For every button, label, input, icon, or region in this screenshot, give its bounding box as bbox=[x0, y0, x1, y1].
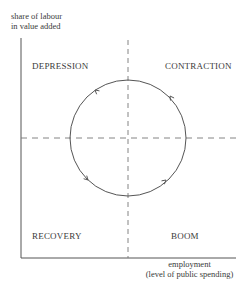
quadrant-label-contraction: CONTRACTION bbox=[165, 61, 232, 71]
quadrant-label-recovery: RECOVERY bbox=[32, 231, 82, 241]
quadrant-label-depression: DEPRESSION bbox=[32, 61, 89, 71]
y-axis-label-line-1: share of labour bbox=[11, 11, 62, 21]
y-axis-label: share of labour in value added bbox=[11, 11, 62, 31]
cycle-diagram bbox=[0, 0, 251, 296]
x-axis-label: employment (level of public spending) bbox=[142, 259, 237, 279]
quadrant-label-boom: BOOM bbox=[171, 231, 199, 241]
y-axis-label-line-2: in value added bbox=[11, 21, 62, 31]
x-axis-label-line-2: (level of public spending) bbox=[142, 269, 237, 279]
x-axis-label-line-1: employment bbox=[142, 259, 237, 269]
